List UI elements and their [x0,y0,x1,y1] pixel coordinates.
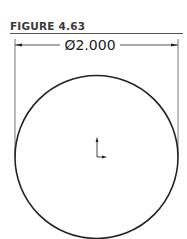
origin-axes-icon [96,137,108,159]
left-arrowhead-icon [15,44,22,47]
diameter-dimension-text: Ø2.000 [60,36,120,54]
right-arrowhead-icon [171,44,178,47]
